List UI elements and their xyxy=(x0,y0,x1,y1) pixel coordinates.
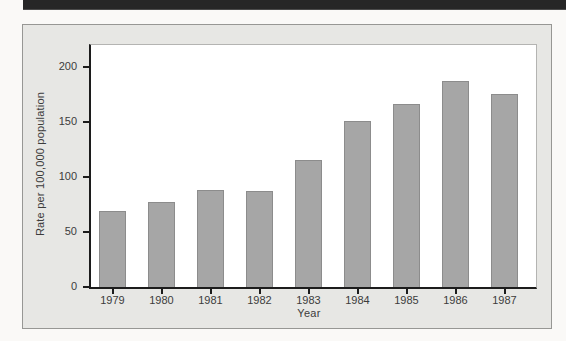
bar-1982 xyxy=(246,191,273,287)
bar-1981 xyxy=(197,190,224,287)
x-axis-tick-label: 1984 xyxy=(336,294,380,306)
x-axis-tick-label: 1987 xyxy=(483,294,527,306)
x-axis-tick-label: 1980 xyxy=(140,294,184,306)
y-axis-tick-label: 200 xyxy=(43,59,77,74)
y-axis-tick xyxy=(83,231,89,233)
y-axis-tick xyxy=(83,176,89,178)
bar-1984 xyxy=(344,121,371,287)
x-axis-tick xyxy=(308,287,310,294)
x-axis-tick-label: 1983 xyxy=(287,294,331,306)
x-axis-tick-label: 1982 xyxy=(238,294,282,306)
y-axis-tick xyxy=(83,286,89,288)
bar-1980 xyxy=(148,202,175,287)
x-axis-tick xyxy=(259,287,261,294)
y-axis-tick-label: 0 xyxy=(43,279,77,294)
x-axis-tick-label: 1981 xyxy=(189,294,233,306)
y-axis-tick xyxy=(83,121,89,123)
chart-panel: Rate per 100,000 population 050100150200… xyxy=(22,24,552,329)
x-axis-tick xyxy=(504,287,506,294)
bar-1985 xyxy=(393,104,420,287)
x-axis-tick xyxy=(161,287,163,294)
x-axis-tick xyxy=(455,287,457,294)
x-axis-tick xyxy=(112,287,114,294)
y-axis-tick-label: 100 xyxy=(43,169,77,184)
bar-1983 xyxy=(295,160,322,287)
y-axis-tick-label: 150 xyxy=(43,114,77,129)
top-rule-divider xyxy=(23,0,566,10)
x-axis-tick xyxy=(406,287,408,294)
figure-page: Rate per 100,000 population 050100150200… xyxy=(0,0,566,341)
x-axis-tick-label: 1985 xyxy=(385,294,429,306)
x-axis-tick xyxy=(357,287,359,294)
plot-area: 0501001502001979198019811982198319841985… xyxy=(89,44,537,289)
x-axis-tick-label: 1979 xyxy=(91,294,135,306)
bar-1987 xyxy=(491,94,518,287)
y-axis-tick-label: 50 xyxy=(43,224,77,239)
x-axis-title: Year xyxy=(297,307,320,319)
bar-1986 xyxy=(442,81,469,287)
x-axis-tick-label: 1986 xyxy=(434,294,478,306)
x-axis-tick xyxy=(210,287,212,294)
bar-1979 xyxy=(99,211,126,287)
y-axis-tick xyxy=(83,66,89,68)
